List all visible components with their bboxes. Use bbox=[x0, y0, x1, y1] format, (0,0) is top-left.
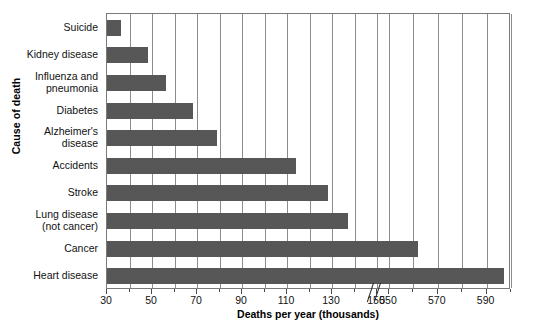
category-label: Cancer bbox=[2, 242, 98, 254]
bar bbox=[107, 213, 348, 229]
bar bbox=[107, 47, 148, 63]
x-tick-minor bbox=[174, 289, 175, 292]
category-label-line: Accidents bbox=[2, 159, 98, 171]
x-tick-label: 30 bbox=[100, 294, 112, 306]
category-label-line: Suicide bbox=[2, 21, 98, 33]
x-tick-minor bbox=[309, 289, 310, 292]
category-label-line: Alzheimer's bbox=[2, 125, 98, 137]
plot-area bbox=[106, 13, 510, 289]
x-tick-minor bbox=[129, 289, 130, 292]
axis-break-icon bbox=[370, 283, 388, 303]
x-axis-title: Deaths per year (thousands) bbox=[106, 308, 510, 320]
category-label-line: pneumonia bbox=[2, 82, 98, 94]
category-label: Suicide bbox=[2, 21, 98, 33]
category-label: Kidney disease bbox=[2, 48, 98, 60]
category-label-line: Influenza and bbox=[2, 70, 98, 82]
x-tick-label: 90 bbox=[235, 294, 247, 306]
x-tick-label: 590 bbox=[477, 294, 495, 306]
gridline bbox=[462, 14, 463, 288]
x-tick-minor bbox=[354, 289, 355, 292]
x-tick-minor bbox=[461, 289, 462, 292]
gridline bbox=[438, 14, 439, 288]
x-axis-tick-labels: 30507090110130150550570590 bbox=[0, 294, 542, 308]
bar bbox=[107, 158, 296, 174]
x-tick-minor bbox=[264, 289, 265, 292]
gridline bbox=[487, 14, 488, 288]
category-label: Lung disease(not cancer) bbox=[2, 208, 98, 232]
category-label-line: Kidney disease bbox=[2, 48, 98, 60]
bar-chart: Cause of death SuicideKidney diseaseInfl… bbox=[0, 0, 542, 332]
category-label: Accidents bbox=[2, 159, 98, 171]
category-label-line: Cancer bbox=[2, 242, 98, 254]
bar bbox=[107, 185, 328, 201]
x-tick-label: 570 bbox=[428, 294, 446, 306]
bar bbox=[107, 130, 217, 146]
bar bbox=[107, 241, 418, 257]
category-label: Heart disease bbox=[2, 269, 98, 281]
bar bbox=[107, 103, 193, 119]
category-label-line: (not cancer) bbox=[2, 220, 98, 232]
bar bbox=[107, 75, 166, 91]
category-label-line: Heart disease bbox=[2, 269, 98, 281]
gridline bbox=[511, 14, 512, 288]
category-label: Diabetes bbox=[2, 104, 98, 116]
x-tick-minor bbox=[412, 289, 413, 292]
category-label-line: disease bbox=[2, 137, 98, 149]
category-label: Stroke bbox=[2, 186, 98, 198]
category-label: Alzheimer'sdisease bbox=[2, 125, 98, 149]
x-tick-label: 50 bbox=[145, 294, 157, 306]
x-tick-label: 110 bbox=[278, 294, 295, 306]
x-tick-label: 70 bbox=[190, 294, 202, 306]
x-tick-label: 130 bbox=[322, 294, 340, 306]
category-axis-labels: SuicideKidney diseaseInfluenza andpneumo… bbox=[4, 13, 102, 289]
category-label-line: Diabetes bbox=[2, 104, 98, 116]
bar bbox=[107, 20, 121, 36]
category-label: Influenza andpneumonia bbox=[2, 70, 98, 94]
x-tick-minor bbox=[219, 289, 220, 292]
x-tick-minor bbox=[510, 289, 511, 292]
category-label-line: Stroke bbox=[2, 186, 98, 198]
bar bbox=[107, 268, 504, 284]
category-label-line: Lung disease bbox=[2, 208, 98, 220]
